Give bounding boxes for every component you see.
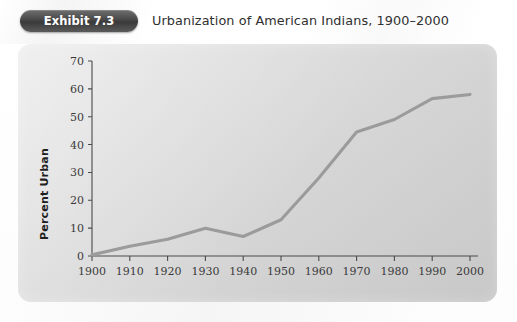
y-tick-label: 40 <box>70 139 84 152</box>
data-series-percent-urban <box>92 94 470 254</box>
x-tick-label: 2000 <box>456 265 484 278</box>
y-tick-label: 70 <box>70 55 84 68</box>
y-tick-label: 30 <box>70 166 84 179</box>
x-tick-label: 1970 <box>343 265 371 278</box>
y-tick-label: 50 <box>70 111 84 124</box>
exhibit-badge-label: Exhibit 7.3 <box>44 14 115 28</box>
y-tick-label: 20 <box>70 194 84 207</box>
chart-panel: 010203040506070 190019101920193019401950… <box>18 44 497 302</box>
exhibit-header: Exhibit 7.3 Urbanization of American Ind… <box>0 0 517 44</box>
x-tick-label: 1980 <box>380 265 408 278</box>
x-tick-label: 1930 <box>191 265 219 278</box>
x-tick-label: 1940 <box>229 265 257 278</box>
x-tick-label: 1960 <box>305 265 333 278</box>
scan-artifact-bottom <box>0 300 517 322</box>
page-title: Urbanization of American Indians, 1900–2… <box>152 13 449 28</box>
x-tick-label: 1910 <box>116 265 144 278</box>
x-tick-label: 1990 <box>418 265 446 278</box>
exhibit-badge: Exhibit 7.3 <box>20 10 138 32</box>
x-tick-label: 1920 <box>154 265 182 278</box>
y-axis-title: Percent Urban <box>38 148 51 240</box>
y-tick-label: 10 <box>70 222 84 235</box>
data-line-percent-urban <box>92 94 470 254</box>
x-axis: 1900191019201930194019501960197019801990… <box>78 256 484 278</box>
x-tick-label: 1950 <box>267 265 295 278</box>
x-tick-label: 1900 <box>78 265 106 278</box>
y-tick-label: 0 <box>77 250 84 263</box>
y-axis: 010203040506070 <box>70 55 92 263</box>
y-tick-label: 60 <box>70 83 84 96</box>
line-chart: 010203040506070 190019101920193019401950… <box>18 44 497 302</box>
